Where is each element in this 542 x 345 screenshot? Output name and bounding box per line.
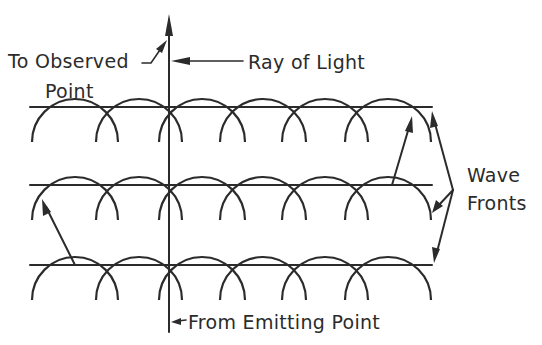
wavelet-arc — [345, 177, 431, 220]
wavelet-arc — [159, 257, 245, 300]
wavelet-arc — [220, 99, 306, 142]
ray-of-light-arrowhead-icon — [171, 57, 190, 65]
normal-ray-right — [392, 124, 410, 185]
wavelet-arc — [159, 177, 245, 220]
wavelet-arc — [282, 99, 368, 142]
wave-fronts-pointer-top — [434, 120, 453, 190]
ray-arrowhead-up-icon — [165, 14, 173, 36]
wavelet-arc — [345, 257, 431, 300]
huygens-wavefront-diagram: To Observed Point Ray of Light Wave Fron… — [0, 0, 542, 345]
to-observed-arrowhead-icon — [156, 40, 167, 53]
from-emitting-arrowhead-icon — [171, 318, 181, 325]
wavelets-bottom — [32, 257, 431, 300]
label-to-observed: To Observed — [8, 52, 129, 71]
wavelet-arc — [220, 177, 306, 220]
label-ray-of-light: Ray of Light — [248, 53, 365, 72]
wavelets-top — [32, 99, 431, 142]
label-from-emitting-point: From Emitting Point — [188, 313, 380, 332]
normal-ray-left — [46, 207, 75, 265]
wavelet-arc — [345, 99, 431, 142]
label-fronts: Fronts — [467, 194, 527, 213]
normal-ray-right-arrowhead-icon — [405, 116, 413, 133]
wavelet-arc — [32, 99, 118, 142]
wave-fronts-arrowhead-bottom-icon — [432, 247, 440, 263]
wave-fronts-arrowhead-top-icon — [430, 111, 438, 128]
label-to-observed-point: Point — [45, 82, 94, 101]
wavelets-middle — [32, 177, 431, 220]
wavelet-arc — [220, 257, 306, 300]
label-wave: Wave — [467, 166, 520, 185]
wavelet-arc — [282, 177, 368, 220]
wavelet-arc — [159, 99, 245, 142]
wavelet-arc — [282, 257, 368, 300]
